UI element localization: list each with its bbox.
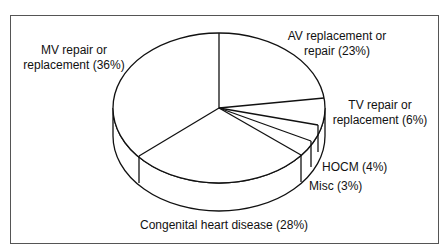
- label-misc: Misc (3%): [309, 179, 362, 194]
- label-av-line1: AV replacement or: [282, 29, 392, 44]
- label-mv-line1: MV repair or: [22, 43, 126, 58]
- label-tv-line1: TV repair or: [330, 98, 430, 113]
- label-av-line2: repair (23%): [282, 44, 392, 59]
- label-av: AV replacement or repair (23%): [282, 29, 392, 59]
- label-tv-line2: replacement (6%): [330, 113, 430, 128]
- label-mv: MV repair or replacement (36%): [22, 43, 126, 73]
- label-mv-line2: replacement (36%): [22, 58, 126, 73]
- label-hocm: HOCM (4%): [322, 160, 387, 175]
- label-tv: TV repair or replacement (6%): [330, 98, 430, 128]
- label-chd: Congenital heart disease (28%): [140, 218, 308, 233]
